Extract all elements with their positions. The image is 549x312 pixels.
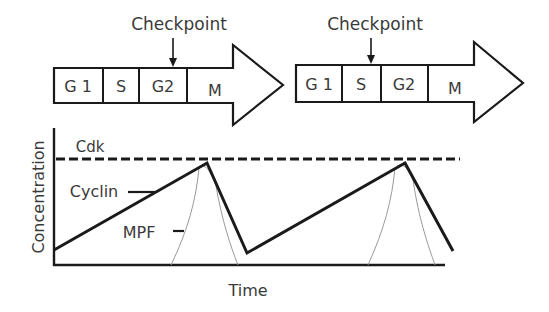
y-axis-label: Concentration — [29, 140, 48, 253]
cyclin-label: Cyclin — [70, 182, 118, 201]
phase-s-1: S — [116, 77, 126, 96]
cell-cycle-diagram: Checkpoint G 1 S G2 M Checkpoint G 1 S G… — [0, 0, 549, 312]
phase-g1-2: G 1 — [305, 75, 333, 94]
phase-m-1: M — [208, 81, 222, 100]
mpf-label: MPF — [123, 223, 156, 242]
checkpoint-label-1: Checkpoint — [131, 14, 227, 34]
concentration-graph: Concentration Time Cdk Cyclin MPF — [29, 128, 460, 300]
phase-g2-2: G2 — [393, 75, 416, 94]
x-axis-label: Time — [227, 281, 267, 300]
checkpoint-label-2: Checkpoint — [327, 14, 423, 34]
mpf-curve-1 — [171, 166, 238, 265]
phase-m-2: M — [448, 79, 462, 98]
cell-cycle-arrow-2: Checkpoint G 1 S G2 M — [296, 14, 523, 122]
phase-s-2: S — [356, 75, 366, 94]
cyclin-line — [54, 163, 453, 253]
cdk-label: Cdk — [76, 138, 105, 156]
cell-cycle-arrow-1: Checkpoint G 1 S G2 M — [54, 14, 283, 125]
checkpoint-arrow-icon-2 — [367, 38, 375, 64]
phase-g1-1: G 1 — [64, 77, 92, 96]
checkpoint-arrow-icon-1 — [169, 38, 177, 67]
phase-g2-1: G2 — [152, 77, 175, 96]
